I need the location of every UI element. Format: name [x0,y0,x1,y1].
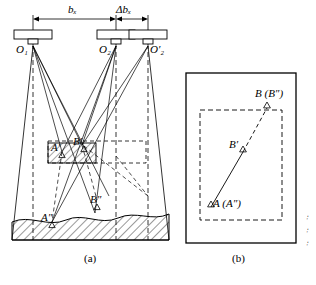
label-O1: O₁ [16,44,28,55]
label-B-double-prime: B″ [90,194,101,205]
label-bx: bₓ [68,4,77,15]
camera-left [14,30,52,44]
margin-mark-1: ∶ [306,215,308,222]
panel-a-group [12,15,169,240]
label-delta-bx: Δbₓ [116,4,131,15]
margin-mark-2: ∶ [306,228,308,235]
segment-Bprime-B [243,108,267,152]
label-B-panel-b: B (B″) [255,88,283,99]
point-markers-b [208,102,271,207]
camera-right [129,30,167,44]
figure-container: bₓ Δbₓ O₁ O₂ O′₂ A′ B′ A″ B″ (a) (b) B (… [0,0,316,285]
label-A-double-prime: A″ [41,212,52,223]
label-O2-prime: O′₂ [150,44,164,55]
caption-b: (b) [232,253,245,264]
margin-mark-3: ∶ [306,241,308,248]
caption-a: (a) [84,253,96,264]
label-B-prime-a: B′ [73,136,82,147]
label-A-prime: A′ [51,142,60,153]
dimension-bx [33,15,116,31]
label-A-panel-b: A (A″) [213,198,241,209]
label-O2: O₂ [99,44,111,55]
dimension-delta-bx [116,15,148,31]
terrain-surface [12,214,169,240]
label-B-prime-panel-b: B′ [229,139,238,150]
